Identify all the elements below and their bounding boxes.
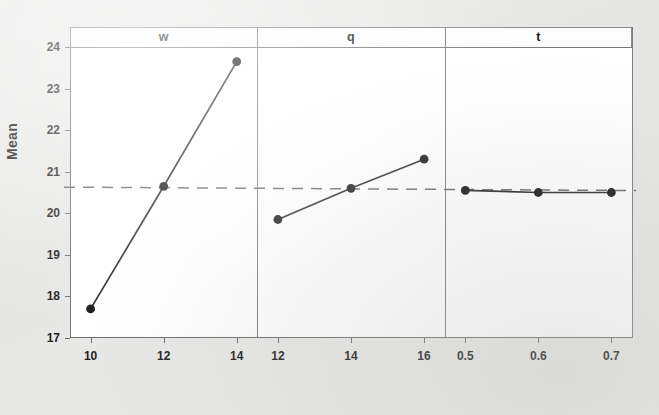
x-tick-mark [278,338,279,343]
y-tick-label: 18 [30,289,60,303]
panel-divider-2 [445,27,446,338]
x-tick-mark [351,338,352,343]
y-tick-label: 23 [30,82,60,96]
y-tick-label: 22 [30,123,60,137]
y-tick-label: 17 [30,331,60,345]
plot-frame [70,47,632,338]
x-tick-mark [237,338,238,343]
x-tick-label: 0.6 [530,349,547,363]
x-tick-label: 12 [157,349,170,363]
panel-label-q: q [257,27,444,47]
x-tick-label: 0.7 [603,349,620,363]
y-tick-mark [65,213,70,214]
y-tick-mark [65,89,70,90]
y-axis-label: Mean [4,123,20,160]
plot-top-rule [70,47,632,48]
x-tick-mark [164,338,165,343]
x-tick-label: 12 [271,349,284,363]
y-tick-mark [65,130,70,131]
x-tick-label: 0.5 [457,349,474,363]
x-tick-mark [424,338,425,343]
y-tick-mark [65,47,70,48]
y-tick-mark [65,172,70,173]
x-tick-mark [91,338,92,343]
y-tick-label: 24 [30,40,60,54]
y-tick-mark [65,296,70,297]
panel-label-w: w [70,27,257,47]
x-tick-label: 14 [230,349,243,363]
x-tick-label: 14 [344,349,357,363]
panel-divider-1 [257,27,258,338]
y-tick-mark [65,338,70,339]
x-tick-label: 10 [84,349,97,363]
x-tick-mark [465,338,466,343]
y-tick-label: 19 [30,248,60,262]
x-tick-label: 16 [417,349,430,363]
y-tick-label: 20 [30,206,60,220]
panel-label-t: t [445,27,632,47]
y-tick-label: 21 [30,165,60,179]
x-tick-mark [611,338,612,343]
y-tick-mark [65,255,70,256]
x-tick-mark [538,338,539,343]
plot-right-edge [632,27,633,338]
